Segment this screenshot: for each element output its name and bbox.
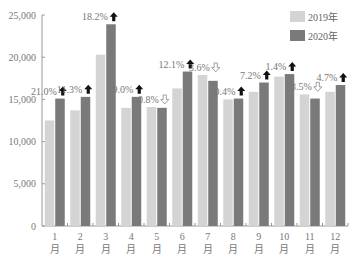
change-percent-label: 18.2% xyxy=(82,11,108,22)
bar-2019-month-3 xyxy=(96,55,106,226)
legend-swatch xyxy=(290,30,305,41)
x-tick-label: 12月 xyxy=(330,231,340,255)
change-annotation: 1.4% xyxy=(265,61,296,72)
arrow-down-icon xyxy=(161,95,169,104)
legend-label: 2019年 xyxy=(308,11,338,23)
bar-2019-month-11 xyxy=(300,94,310,226)
arrow-up-icon xyxy=(237,87,245,96)
bar-2020-month-7 xyxy=(208,81,218,226)
svg-text:5: 5 xyxy=(154,231,159,242)
bar-2020-month-8 xyxy=(234,99,244,226)
bar-2020-month-6 xyxy=(183,72,193,226)
x-axis-labels: 1月2月3月4月5月6月7月8月9月10月11月12月 xyxy=(50,231,341,255)
change-percent-label: 0.4% xyxy=(214,86,235,97)
svg-text:月: 月 xyxy=(177,244,187,255)
svg-text:4: 4 xyxy=(129,231,134,242)
bar-2019-month-6 xyxy=(172,88,182,226)
x-tick-label: 4月 xyxy=(126,231,136,255)
svg-text:8: 8 xyxy=(231,231,236,242)
change-annotation: 0.4% xyxy=(214,86,245,97)
change-annotation: 11.3% xyxy=(57,84,92,95)
change-percent-label: 0.8% xyxy=(138,94,159,105)
bar-2020-month-3 xyxy=(106,24,116,226)
bar-2020-month-10 xyxy=(285,74,295,226)
x-tick-label: 1月 xyxy=(50,231,60,255)
svg-text:月: 月 xyxy=(203,244,213,255)
svg-text:月: 月 xyxy=(126,244,136,255)
change-percent-label: 1.4% xyxy=(265,61,286,72)
bars xyxy=(45,24,346,226)
legend-swatch xyxy=(290,11,305,22)
bar-2019-month-9 xyxy=(249,92,259,226)
svg-text:月: 月 xyxy=(305,244,315,255)
arrow-up-icon xyxy=(135,85,143,94)
arrow-up-icon xyxy=(84,85,92,94)
change-annotation: 4.7% xyxy=(316,72,347,83)
bar-2020-month-1 xyxy=(55,99,65,226)
y-tick-label: 10,000 xyxy=(9,136,37,147)
svg-text:月: 月 xyxy=(330,244,340,255)
legend-item-2020: 2020年 xyxy=(290,30,338,42)
svg-text:月: 月 xyxy=(101,244,111,255)
x-tick-label: 6月 xyxy=(177,231,187,255)
bar-2019-month-8 xyxy=(223,99,233,226)
bar-2020-month-11 xyxy=(310,99,320,226)
bar-2020-month-9 xyxy=(259,83,269,226)
x-tick-label: 7月 xyxy=(203,231,213,255)
bar-2019-month-10 xyxy=(274,77,284,226)
bar-2020-month-12 xyxy=(336,85,346,226)
svg-text:1: 1 xyxy=(52,231,57,242)
bar-2019-month-7 xyxy=(198,75,208,226)
bar-2020-month-4 xyxy=(132,97,142,226)
y-tick-label: 5,000 xyxy=(14,178,37,189)
x-tick-label: 3月 xyxy=(101,231,111,255)
svg-text:2: 2 xyxy=(78,231,83,242)
change-percent-label: 9.0% xyxy=(112,84,133,95)
bar-2019-month-12 xyxy=(325,92,335,226)
svg-text:7: 7 xyxy=(205,231,210,242)
y-tick-label: 0 xyxy=(31,221,36,232)
change-percent-label: 21.0% xyxy=(31,86,57,97)
svg-text:12: 12 xyxy=(330,231,340,242)
change-percent-label: 12.1% xyxy=(158,59,184,70)
change-percent-label: 7.2% xyxy=(240,70,261,81)
svg-text:11: 11 xyxy=(305,231,315,242)
bar-2019-month-2 xyxy=(70,110,80,226)
change-percent-label: 11.3% xyxy=(57,84,82,95)
svg-text:3: 3 xyxy=(103,231,108,242)
x-tick-label: 11月 xyxy=(305,231,315,255)
y-tick-label: 20,000 xyxy=(9,52,37,63)
svg-text:月: 月 xyxy=(75,244,85,255)
bar-2019-month-1 xyxy=(45,121,55,227)
change-percent-label: 3.5% xyxy=(291,81,312,92)
x-tick-label: 9月 xyxy=(254,231,264,255)
legend: 2019年2020年 xyxy=(290,11,338,42)
svg-text:月: 月 xyxy=(254,244,264,255)
x-tick-label: 10月 xyxy=(279,231,289,255)
legend-label: 2020年 xyxy=(308,30,338,42)
change-annotation: 0.8% xyxy=(138,94,169,105)
svg-text:月: 月 xyxy=(279,244,289,255)
arrow-up-icon xyxy=(339,73,347,82)
svg-text:9: 9 xyxy=(256,231,261,242)
arrow-up-icon xyxy=(288,62,296,71)
change-annotation: 3.6% xyxy=(189,62,220,73)
svg-text:月: 月 xyxy=(152,244,162,255)
bar-2019-month-4 xyxy=(121,108,131,226)
bar-2020-month-5 xyxy=(157,108,167,226)
svg-text:10: 10 xyxy=(279,231,289,242)
svg-text:6: 6 xyxy=(180,231,185,242)
y-tick-label: 25,000 xyxy=(9,10,37,21)
arrow-down-icon xyxy=(212,63,220,72)
change-annotation: 18.2% xyxy=(82,11,118,22)
svg-text:月: 月 xyxy=(50,244,60,255)
change-percent-label: 3.6% xyxy=(189,62,210,73)
bar-2019-month-5 xyxy=(147,107,157,226)
change-percent-label: 4.7% xyxy=(316,72,337,83)
x-tick-label: 8月 xyxy=(228,231,238,255)
x-tick-label: 2月 xyxy=(75,231,85,255)
bar-chart: 05,00010,00015,00020,00025,000 21.0%11.3… xyxy=(0,0,352,261)
legend-item-2019: 2019年 xyxy=(290,11,338,23)
svg-text:月: 月 xyxy=(228,244,238,255)
arrow-up-icon xyxy=(110,12,118,21)
